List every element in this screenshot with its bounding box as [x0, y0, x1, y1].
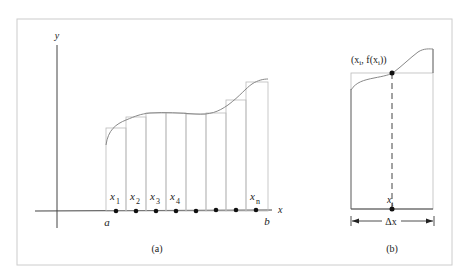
rect-6	[206, 113, 226, 211]
sample-dot	[174, 209, 179, 214]
point-label: (xi, f(xi))	[351, 54, 387, 67]
label-xn: xn	[249, 190, 260, 206]
rect-5	[186, 114, 206, 211]
panel-b: (xi, f(xi)) xi Δx (b)	[351, 49, 434, 255]
caption-a: (a)	[151, 243, 162, 255]
sample-dot	[254, 208, 259, 213]
y-axis-label: y	[54, 30, 60, 41]
point-on-curve	[390, 71, 395, 76]
label-x3: x3	[149, 190, 160, 206]
arrow-right-icon	[426, 219, 433, 224]
label-x1: x1	[109, 190, 120, 206]
x-axis-label: x	[277, 204, 283, 215]
label-x2: x2	[129, 190, 140, 206]
figure-border	[17, 19, 452, 265]
label-b: b	[264, 215, 270, 227]
sample-dot	[214, 208, 219, 213]
function-curve	[106, 79, 268, 145]
sample-dot	[154, 209, 159, 214]
riemann-sum-diagram: y x x1 x2 x3	[0, 0, 467, 280]
label-x4: x4	[169, 190, 180, 206]
sample-labels: x1 x2 x3 x4 xn	[109, 190, 260, 206]
sample-dot	[134, 209, 139, 214]
sample-dot	[234, 208, 239, 213]
label-a: a	[104, 216, 110, 228]
sample-dot	[114, 209, 119, 214]
delta-x-label: Δx	[385, 216, 396, 227]
caption-b: (b)	[386, 243, 398, 255]
arrow-left-icon	[352, 219, 359, 224]
sample-dot	[194, 209, 199, 214]
rect-7	[226, 100, 246, 211]
panel-a: y x x1 x2 x3	[35, 30, 283, 255]
